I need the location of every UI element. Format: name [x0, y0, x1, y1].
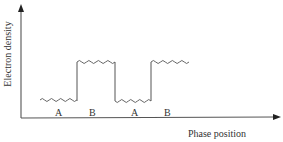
wave-segment-b1: [77, 61, 115, 64]
x-axis-arrow-icon: [273, 114, 281, 120]
segment-label-a1: A: [55, 107, 63, 118]
wave-segment-b2: [151, 61, 189, 64]
y-axis-label: Electron density: [2, 21, 13, 86]
x-axis-label: Phase position: [188, 128, 246, 139]
segment-label-b1: B: [89, 107, 96, 118]
segment-label-a2: A: [131, 107, 139, 118]
wave-segment-a2: [115, 100, 151, 103]
y-axis-arrow-icon: [18, 4, 24, 12]
segment-label-b2: B: [164, 107, 171, 118]
wave-segment-a1: [40, 99, 77, 102]
electron-density-diagram: A B A B Electron density Phase position: [0, 0, 283, 142]
